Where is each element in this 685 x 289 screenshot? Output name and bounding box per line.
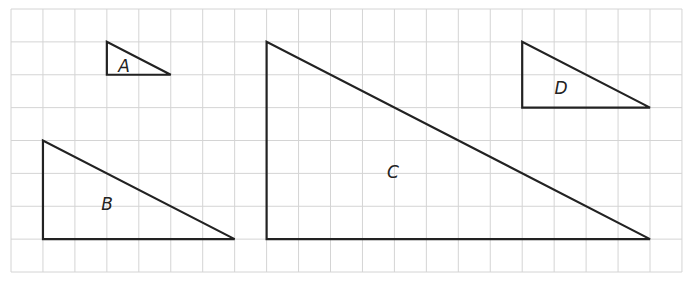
triangle-label: B (101, 194, 113, 214)
triangle-label: A (117, 56, 130, 76)
triangle-label: D (554, 78, 567, 98)
triangle-label: C (387, 162, 399, 182)
grid-lines (11, 9, 682, 272)
grid-diagram: ABCD (0, 0, 685, 289)
